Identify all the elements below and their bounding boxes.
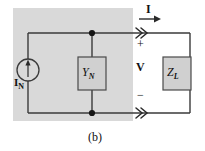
polarity-negative-label: − <box>137 89 144 101</box>
norton-admittance-label: YN <box>82 66 94 81</box>
norton-admittance-label-subscript: N <box>89 72 95 81</box>
load-impedance-label: ZL <box>167 66 179 81</box>
current-source-label: IN <box>14 77 24 91</box>
terminal-voltage-label: V <box>136 61 145 73</box>
norton-admittance-label-main: Y <box>82 65 89 79</box>
figure-caption: (b) <box>88 131 102 143</box>
polarity-positive-label: + <box>137 38 144 50</box>
terminal-current-label: I <box>146 3 151 15</box>
load-impedance-label-subscript: L <box>174 72 179 81</box>
current-direction-arrow-icon <box>139 16 161 23</box>
current-source-label-subscript: N <box>18 82 24 91</box>
junction-node-bottom-icon <box>89 110 95 116</box>
circuit-figure: I V + − IN YN ZL (b) <box>0 0 205 151</box>
load-impedance-label-main: Z <box>167 65 174 79</box>
junction-node-top-icon <box>89 30 95 36</box>
